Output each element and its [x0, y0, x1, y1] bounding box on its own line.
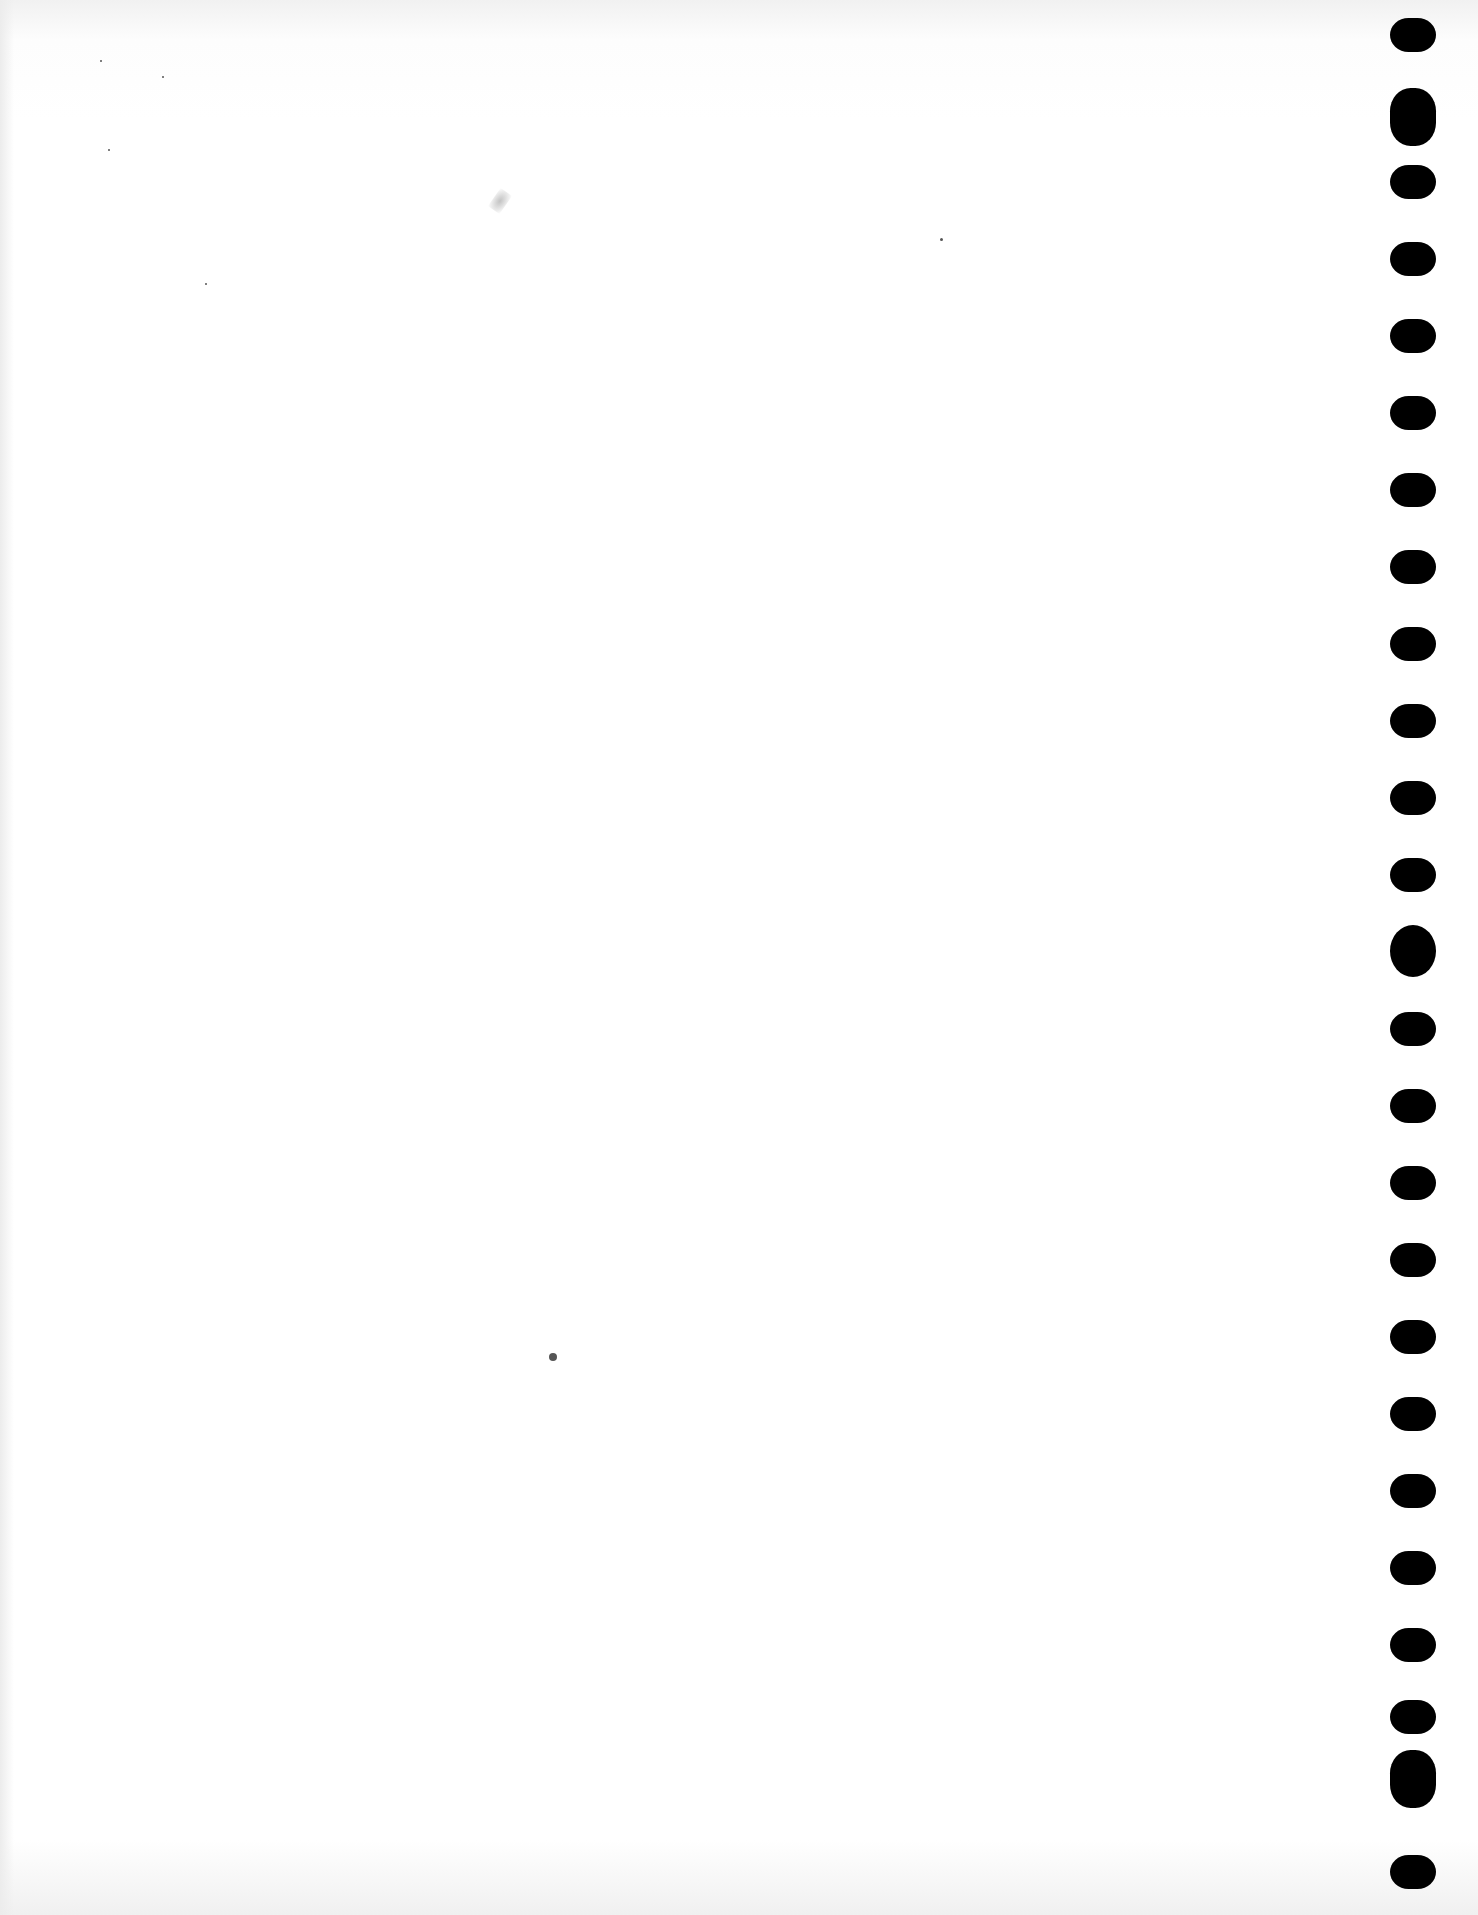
binding-hole [1390, 1397, 1436, 1431]
binding-hole [1390, 1628, 1436, 1662]
binding-hole [1390, 925, 1436, 977]
binding-hole [1390, 1855, 1436, 1889]
binding-hole [1390, 18, 1436, 52]
binding-hole [1390, 319, 1436, 353]
dust-speck [162, 76, 164, 78]
binding-hole [1390, 1474, 1436, 1508]
binding-hole [1390, 165, 1436, 199]
dust-speck [940, 238, 943, 241]
binding-hole [1390, 396, 1436, 430]
binding-hole [1390, 1320, 1436, 1354]
binding-hole [1390, 704, 1436, 738]
binding-hole [1390, 242, 1436, 276]
binding-hole [1390, 1750, 1436, 1808]
dust-speck [549, 1353, 557, 1361]
binding-hole [1390, 1243, 1436, 1277]
binding-hole [1390, 550, 1436, 584]
dust-speck [100, 60, 102, 62]
binding-hole [1390, 473, 1436, 507]
binding-hole [1390, 1089, 1436, 1123]
binding-hole [1390, 781, 1436, 815]
binding-hole [1390, 1012, 1436, 1046]
binding-hole [1390, 858, 1436, 892]
smudge-mark [488, 188, 512, 214]
dust-speck [205, 283, 207, 285]
binding-hole [1390, 1551, 1436, 1585]
binding-hole [1390, 1700, 1436, 1734]
binding-hole [1390, 627, 1436, 661]
binding-hole [1390, 88, 1436, 146]
binding-hole [1390, 1166, 1436, 1200]
blank-page [0, 0, 1478, 1915]
dust-speck [108, 149, 110, 151]
